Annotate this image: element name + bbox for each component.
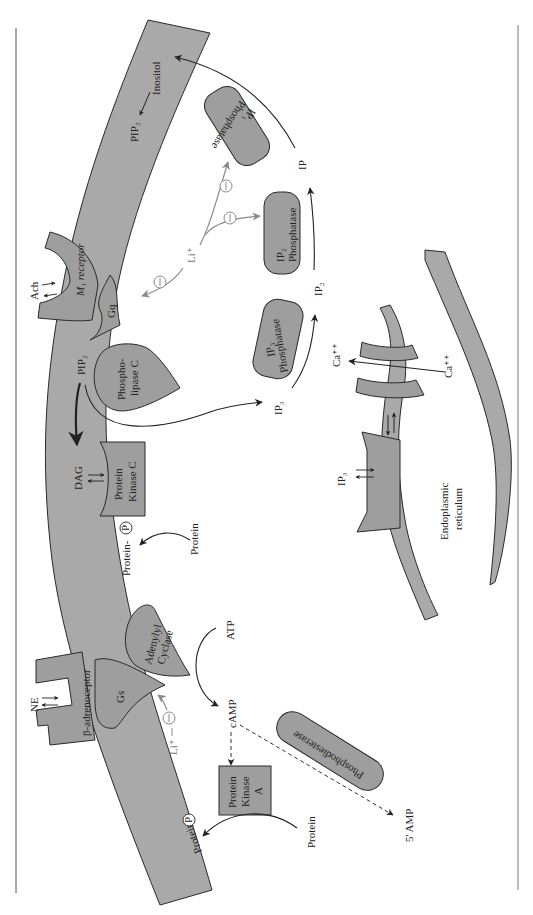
ip3-label: IP₃ [272, 401, 284, 415]
camp-label: cAMP [226, 699, 238, 728]
pka-label-line3: A [252, 787, 264, 795]
protein-pka-label: Protein [305, 816, 317, 848]
protein-pkc-label: Protein [188, 523, 200, 555]
ach-arrow-in [42, 283, 55, 285]
pka-label-line2: Kinase [239, 776, 251, 807]
pka-phosphorylation-arrow [203, 814, 297, 836]
ne-label: NE [28, 697, 40, 712]
pkc-phosphorylation-arrow [140, 533, 190, 545]
plc-label-line2: lipase C [128, 360, 140, 396]
pka-label-line1: Protein [226, 776, 238, 808]
ca-channel-top-half [360, 342, 418, 361]
ip2-label: IP₂ [312, 282, 324, 296]
pkc-label-line1: Protein [112, 468, 124, 500]
gq-label: Gq [105, 304, 117, 318]
pip2-resynthesis-label: PIP₂ [128, 122, 140, 142]
li-inhibit-ip1-phosphatase [200, 162, 228, 245]
signaling-diagram: IP₃ Ca⁺⁺ Ca⁺⁺ Endoplasmic reticulum M₁ r… [0, 0, 533, 915]
ach-arrow-out [44, 294, 57, 296]
5amp-label: 5' AMP [403, 809, 415, 842]
pkc-label-line2: Kinase C [126, 461, 138, 502]
ip1-phosphatase [199, 81, 275, 171]
ip2-phosphatase-line1: IP₂ [274, 248, 286, 262]
er-label-line1: Endoplasmic [438, 482, 450, 540]
li-ip-label: Li⁺ [185, 247, 197, 263]
ca-released-label: Ca⁺⁺ [330, 343, 342, 367]
phosphate-p-pka: P [182, 817, 194, 823]
atp-label: ATP [224, 620, 236, 640]
ip3-receptor [357, 432, 400, 532]
ip-label: IP [296, 160, 308, 170]
er-label-line2: reticulum [452, 487, 464, 530]
ip2-phosphatase-line2: Phosphatase [286, 208, 298, 263]
ip2-to-ip-arrow [310, 188, 314, 270]
beta-adrenoceptor-label: β-adrenoceptor [80, 669, 92, 736]
li-inhibit-gs [158, 695, 167, 710]
ach-label: Ach [28, 281, 40, 300]
ca-stored-label: Ca⁺⁺ [442, 354, 454, 378]
pip2-label: PIP₂ [75, 355, 87, 375]
atp-to-camp-arrow [196, 628, 218, 706]
phosphate-p-pkc: P [119, 525, 131, 531]
plc-label-line1: Phospho- [115, 358, 127, 400]
gs-label: Gs [114, 691, 126, 703]
protein-p-pkc-label: Protein- [120, 540, 132, 576]
m1-receptor-label: M₁ receptor [74, 243, 86, 297]
li-gs-label: Li⁺ [167, 739, 179, 755]
inositol-label: Inositol [150, 61, 162, 95]
ip3-receptor-label: IP₃ [335, 472, 347, 486]
dag-label: DAG [72, 466, 84, 490]
